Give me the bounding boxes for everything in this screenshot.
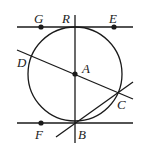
label-B: B	[78, 128, 86, 141]
label-D: D	[17, 56, 26, 69]
label-C: C	[117, 98, 126, 111]
label-F: F	[35, 128, 43, 141]
label-R: R	[62, 12, 70, 25]
label-G: G	[34, 12, 43, 25]
diagram-canvas	[0, 0, 147, 148]
point-A	[72, 71, 77, 76]
label-A: A	[82, 62, 90, 75]
geometry-diagram: GREDACFB	[0, 0, 147, 148]
point-F	[38, 120, 43, 125]
label-E: E	[109, 12, 117, 25]
